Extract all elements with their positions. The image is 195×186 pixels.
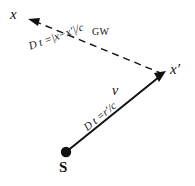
label-velocity-v: v xyxy=(112,84,118,98)
label-observer-x: x xyxy=(10,7,17,22)
physics-diagram: x x′ S GW D t =|x−x′|/c v D t =r′/c xyxy=(0,0,195,186)
label-observer-x-prime: x′ xyxy=(170,62,180,77)
source-point-marker xyxy=(61,147,71,157)
gravitational-wave-arrowhead xyxy=(28,18,40,26)
label-source-s: S xyxy=(59,160,67,175)
label-gravitational-wave: GW xyxy=(92,27,109,37)
